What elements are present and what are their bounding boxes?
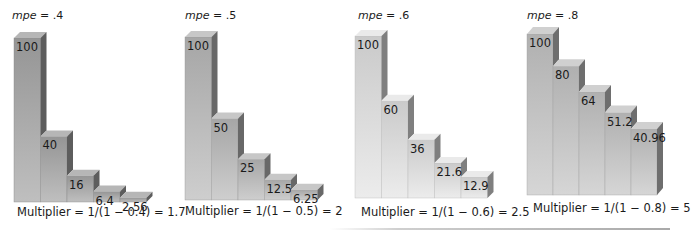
multiplier-caption: Multiplier = 1/(1 − 0.5) = 2 xyxy=(185,204,343,218)
bar-value-label: 100 xyxy=(357,38,379,52)
bar-value-label: 40 xyxy=(43,138,58,152)
bar: 6.25 xyxy=(291,184,324,206)
multiplier-caption: Multiplier = 1/(1 − 0.4) = 1.7 xyxy=(17,205,186,219)
bar-value-label: 36 xyxy=(410,142,425,156)
bar: 12.9 xyxy=(461,171,494,198)
bar: 40.96 xyxy=(631,122,666,195)
bar-value-label: 12.5 xyxy=(267,182,293,196)
chart-panel-mpe-06: mpe = .6 100603621.612.9 Multiplier = 1/… xyxy=(340,0,510,231)
bar-value-label: 100 xyxy=(16,40,38,54)
bar-value-label: 16 xyxy=(69,178,84,192)
stepped-bar-chart: 100502512.56.25 xyxy=(170,0,340,231)
multiplier-caption: Multiplier = 1/(1 − 0.8) = 5 xyxy=(533,201,691,215)
stepped-bar-chart: 100603621.612.9 xyxy=(340,0,510,231)
divider-line xyxy=(330,228,670,230)
chart-panel-mpe-05: mpe = .5 100502512.56.25 Multiplier = 1/… xyxy=(170,0,340,231)
bar-value-label: 100 xyxy=(529,36,551,50)
bar-value-label: 80 xyxy=(555,68,570,82)
bar-value-label: 40.96 xyxy=(633,131,666,145)
bar-value-label: 50 xyxy=(214,121,229,135)
stepped-bar-chart: 100806451.240.96 xyxy=(500,0,670,231)
bar-value-label: 25 xyxy=(240,161,255,175)
bar-value-label: 12.9 xyxy=(463,179,489,193)
bar-value-label: 64 xyxy=(581,94,596,108)
bar-value-label: 100 xyxy=(187,39,209,53)
stepped-bar-chart: 10040166.42.56 xyxy=(0,0,170,231)
bar-value-label: 51.2 xyxy=(607,115,633,129)
chart-panel-mpe-08: mpe = .8 100806451.240.96 Multiplier = 1… xyxy=(500,0,670,231)
bar-value-label: 21.6 xyxy=(437,165,463,179)
chart-panel-mpe-04: mpe = .4 10040166.42.56 Multiplier = 1/(… xyxy=(0,0,170,231)
bar-value-label: 60 xyxy=(384,103,399,117)
